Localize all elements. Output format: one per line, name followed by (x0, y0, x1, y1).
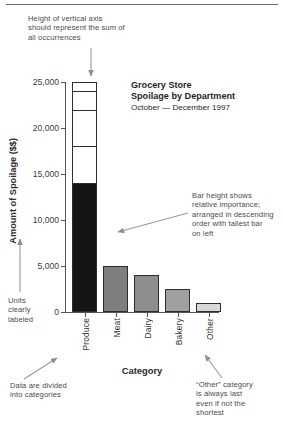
annotation-units-line1: Units (8, 296, 33, 305)
y-axis-title: Amount of Spoilage ($$) (8, 138, 18, 244)
y-axis-line (65, 82, 66, 313)
y-tick-mark (61, 174, 66, 175)
bar-segment-divider (72, 146, 97, 147)
annotation-axis-height-line2: should represent the sum of (28, 23, 125, 32)
chart-page: Height of vertical axis should represent… (0, 0, 283, 437)
bar-produce[interactable] (72, 183, 97, 312)
annotation-axis-height-line1: Height of vertical axis (28, 14, 125, 23)
y-tick-mark (61, 312, 66, 313)
x-axis-title: Category (66, 365, 218, 376)
bar-other[interactable] (196, 303, 221, 312)
annotation-units-labeled: Units clearly labeled (8, 296, 33, 324)
annotation-units-line2: clearly (8, 305, 33, 314)
category-label-dairy: Dairy (143, 318, 153, 339)
annotation-other-last-line4: shortest (196, 408, 253, 417)
annotation-other-last: “Other” category is always last even if … (196, 380, 253, 418)
annotation-data-divided: Data are divided into categories (10, 381, 67, 400)
annotation-axis-height: Height of vertical axis should represent… (28, 14, 125, 42)
y-tick-label: 5,000 (37, 261, 59, 271)
bar-bakery[interactable] (165, 289, 190, 312)
x-tick-mark (178, 312, 179, 317)
y-tick-mark (61, 128, 66, 129)
category-label-other: Other (205, 318, 215, 340)
y-tick-label: 15,000 (33, 169, 59, 179)
annotation-other-last-line1: “Other” category (196, 380, 253, 389)
bar-dairy[interactable] (134, 275, 159, 312)
x-tick-mark (209, 312, 210, 317)
bar-segment-divider (72, 110, 97, 111)
bar-segment-divider (72, 91, 97, 92)
annotation-other-last-line2: is always last (196, 389, 253, 398)
category-label-bakery: Bakery (174, 318, 184, 345)
x-axis-line (65, 312, 219, 313)
annotation-axis-height-line3: all occurrences (28, 33, 125, 42)
y-tick-label: 20,000 (33, 123, 59, 133)
annotation-data-divided-line1: Data are divided (10, 381, 67, 390)
y-tick-label: 0 (54, 307, 59, 317)
y-tick-mark (61, 220, 66, 221)
category-label-meat: Meat (112, 318, 122, 337)
top-divider-rule (6, 4, 278, 5)
y-tick-label: 25,000 (33, 77, 59, 87)
arrow-data-divided (24, 358, 57, 379)
annotation-data-divided-line2: into categories (10, 390, 67, 399)
y-tick-mark (61, 82, 66, 83)
y-tick-label: 10,000 (33, 215, 59, 225)
annotation-units-line3: labeled (8, 315, 33, 324)
category-label-produce: Produce (81, 318, 91, 351)
x-tick-mark (116, 312, 117, 317)
plot-area: 05,00010,00015,00020,00025,000 ProduceMe… (66, 82, 218, 312)
annotation-other-last-line3: even if not the (196, 399, 253, 408)
x-tick-mark (147, 312, 148, 317)
x-tick-mark (85, 312, 86, 317)
bar-meat[interactable] (103, 266, 128, 312)
y-tick-mark (61, 266, 66, 267)
